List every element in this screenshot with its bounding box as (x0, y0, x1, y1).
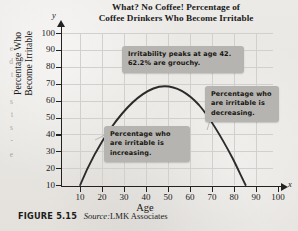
increasing-callout-line2: are irritable is (110, 139, 164, 147)
source-value: LMK Associates (110, 211, 168, 221)
figure-5-15: What? No Coffee! Percentage of Coffee Dr… (0, 0, 298, 231)
peak-callout-line2: 62.2% are grouchy. (128, 59, 200, 67)
y-axis-title-line2: Become Irritable (23, 31, 34, 96)
peak-callout: Irritability peaks at age 42. 62.2% are … (122, 46, 244, 73)
y-tick-label: 20 (25, 163, 55, 173)
increasing-callout-line1: Percentage who (110, 130, 171, 138)
peak-callout-line1: Irritability peaks at age 42. (128, 50, 231, 58)
chart-title-line1: What? No Coffee! Percentage of (112, 2, 240, 12)
figure-caption: FIGURE 5.15 Source:LMK Associates (18, 211, 168, 221)
decreasing-callout-line3: decreasing. (211, 109, 255, 117)
decreasing-callout: Percentage who are irritable is decreasi… (205, 86, 279, 122)
x-tick-label: 100 (265, 192, 291, 202)
y-tick-label: 30 (25, 146, 55, 156)
decreasing-callout-line1: Percentage who (211, 90, 272, 98)
y-tick-label: 40 (25, 129, 55, 139)
chart-title: What? No Coffee! Percentage of Coffee Dr… (62, 2, 290, 23)
chart-title-line2: Coffee Drinkers Who Become Irritable (99, 13, 254, 23)
increasing-callout: Percentage who are irritable is increasi… (104, 126, 190, 162)
figure-number: FIGURE 5.15 (18, 211, 77, 221)
y-axis-title: Percentage Who Become Irritable (12, 4, 35, 122)
y-axis-title-line1: Percentage Who (12, 32, 23, 95)
source-label: Source: (84, 211, 110, 221)
x-axis-symbol: x (288, 179, 292, 189)
y-axis-arrow-icon (57, 20, 65, 27)
y-tick-label: 10 (25, 180, 55, 190)
decreasing-callout-line2: are irritable is (211, 99, 265, 107)
increasing-callout-line3: increasing. (110, 149, 152, 157)
